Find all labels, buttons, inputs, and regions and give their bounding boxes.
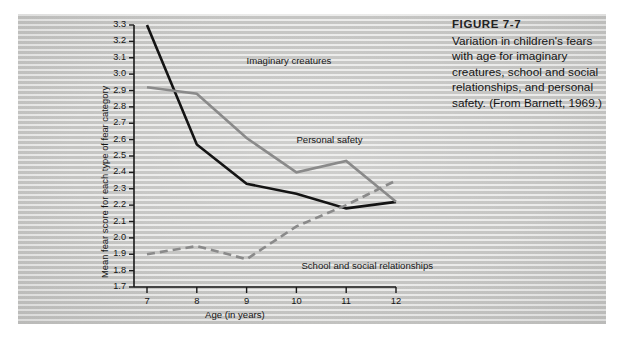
x-axis-tick-label: 10 [282, 295, 310, 306]
x-axis-tick-label: 9 [233, 295, 261, 306]
y-axis-tick-label: 1.7 [96, 281, 126, 291]
x-axis-tick-label: 8 [183, 295, 211, 306]
y-axis-title: Mean fear score for each type of fear ca… [99, 86, 110, 278]
series-line-2 [147, 181, 396, 260]
y-axis-tick-label: 3.1 [96, 52, 126, 62]
figure-root: 3.33.23.13.02.92.82.72.62.52.42.32.22.12… [0, 0, 623, 342]
y-axis-tick-label: 3.3 [96, 19, 126, 29]
y-axis-tick-label: 3.0 [96, 68, 126, 78]
series-label-2: School and social relationships [301, 260, 433, 271]
series-label-0: Imaginary creatures [247, 55, 332, 66]
series-label-1: Personal safety [296, 134, 362, 145]
series-line-0 [147, 25, 396, 208]
x-axis-tick-label: 11 [332, 295, 360, 306]
x-axis-tick-label: 7 [133, 295, 161, 306]
figure-caption: FIGURE 7-7 Variation in children's fears… [452, 18, 614, 111]
x-axis-title: Age (in years) [205, 309, 265, 320]
x-axis-tick-label: 12 [382, 295, 410, 306]
figure-caption-title: FIGURE 7-7 [452, 18, 614, 30]
y-axis-tick-label: 3.2 [96, 35, 126, 45]
figure-caption-text: Variation in children's fears with age f… [452, 34, 614, 111]
